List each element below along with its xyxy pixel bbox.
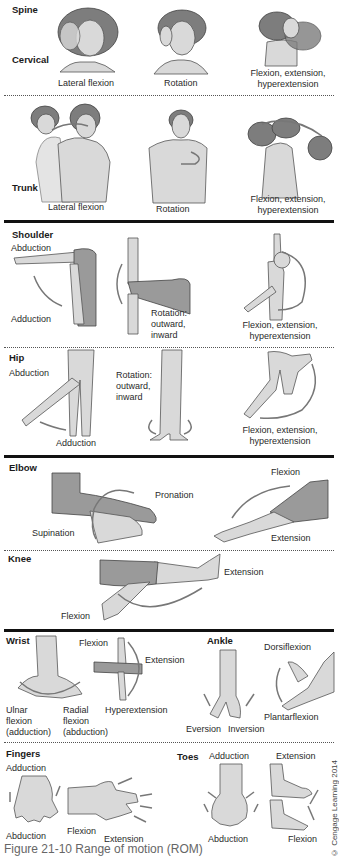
cervical-flexion-extension-illustration [255,8,325,68]
divider-knee-wrist [4,629,334,632]
label-knee-extension: Extension [224,567,264,578]
label-wrist-hyperextension: Hyperextension [105,705,168,716]
section-title-knee: Knee [8,553,31,564]
divider-elbow-knee [4,550,334,551]
label-hip-rotation-line2: outward, [116,381,151,392]
label-hip-rotation-line3: inward [116,392,143,403]
label-elbow-supination: Supination [32,528,75,539]
label-hip-adduction: Adduction [56,438,96,449]
fingers-adduction-abduction-illustration [6,776,62,824]
ankle-eversion-inversion-illustration [200,650,260,720]
label-shoulder-rotation-line1: Rotation: [151,308,187,319]
section-title-elbow: Elbow [9,462,37,473]
label-toes-extension: Extension [276,751,316,762]
section-title-shoulder: Shoulder [12,229,53,240]
label-cervical-flexion-extension-line1: Flexion, extension, [236,68,340,79]
label-wrist-radial-line3: (abduction) [63,727,108,738]
cervical-rotation-illustration [150,6,210,76]
trunk-lateral-flexion-illustration [30,102,120,202]
section-title-ankle: Ankle [207,635,233,646]
label-shoulder-rotation-line3: inward [151,330,178,341]
label-knee-flexion: Flexion [61,611,90,622]
label-ankle-eversion: Eversion [186,724,221,735]
label-fingers-adduction: Adduction [6,763,46,774]
label-wrist-radial-line1: Radial [63,705,89,716]
label-wrist-ulnar-line1: Ulnar [6,705,28,716]
section-title-cervical: Cervical [12,54,49,65]
knee-flexion-extension-illustration [98,554,223,624]
toes-extension-flexion-illustration [268,764,324,832]
label-elbow-flexion: Flexion [271,467,300,478]
label-toes-adduction: Adduction [209,751,249,762]
label-trunk-flexion-extension-line2: hyperextension [236,205,340,216]
label-toes-flexion: Flexion [288,834,317,845]
section-title-spine: Spine [12,4,38,15]
label-trunk-rotation: Rotation [156,204,190,215]
label-fingers-abduction: Abduction [6,831,46,842]
label-ankle-plantarflexion: Plantarflexion [264,712,319,723]
label-cervical-lateral-flexion: Lateral flexion [58,78,114,89]
divider-cervical-trunk [4,95,334,96]
fingers-flexion-extension-illustration [66,776,156,830]
label-wrist-ulnar-line3: (adduction) [6,727,51,738]
hip-flexion-extension-illustration [240,350,325,426]
label-cervical-rotation: Rotation [164,78,198,89]
section-title-fingers: Fingers [6,748,40,759]
label-hip-rotation-line1: Rotation: [116,370,152,381]
toes-adduction-abduction-illustration [202,764,260,830]
copyright-credit: © Cengage Learning 2014 [330,760,339,856]
label-shoulder-adduction: Adduction [11,314,51,325]
label-shoulder-flexion-extension-line1: Flexion, extension, [224,320,336,331]
label-fingers-flexion: Flexion [67,826,96,837]
label-wrist-extension: Extension [145,655,185,666]
label-shoulder-flexion-extension-line2: hyperextension [224,331,336,342]
label-trunk-flexion-extension-line1: Flexion, extension, [236,194,340,205]
label-ankle-inversion: Inversion [228,724,265,735]
cervical-lateral-flexion-illustration [50,6,120,76]
label-wrist-ulnar-line2: flexion [6,716,32,727]
divider-shoulder-hip [4,347,334,348]
label-cervical-flexion-extension-line2: hyperextension [236,79,340,90]
wrist-flexion-extension-illustration [92,636,152,704]
label-elbow-pronation: Pronation [155,490,194,501]
hip-abduction-illustration [20,350,100,436]
shoulder-flexion-extension-illustration [238,232,308,322]
label-wrist-radial-line2: flexion [63,716,89,727]
label-shoulder-rotation-line2: outward, [151,319,186,330]
hip-rotation-illustration [148,350,194,442]
divider-hip-elbow [4,455,334,458]
trunk-flexion-extension-illustration [242,118,332,198]
section-title-trunk: Trunk [12,182,38,193]
label-hip-flexion-extension-line2: hyperextension [225,436,335,447]
figure-caption: Figure 21-10 Range of motion (ROM) [4,842,203,856]
section-title-toes: Toes [177,751,198,762]
label-hip-flexion-extension-line1: Flexion, extension, [225,425,335,436]
trunk-rotation-illustration [145,108,215,203]
divider-spine-shoulder [4,220,334,223]
label-trunk-lateral-flexion: Lateral flexion [48,202,104,213]
divider-wrist-fingers [4,742,334,743]
label-elbow-extension: Extension [271,533,311,544]
label-toes-abduction: Abduction [208,834,248,845]
wrist-ulnar-radial-flexion-illustration [16,636,84,700]
ankle-dorsiflexion-plantarflexion-illustration [268,652,336,712]
